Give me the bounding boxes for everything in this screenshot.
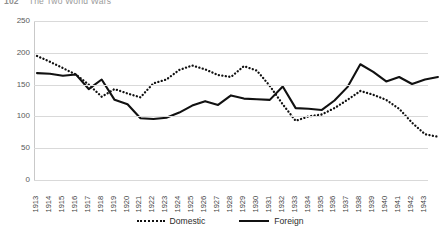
running-title: The Two World Wars [29,0,111,6]
x-tick-label-1918: 1918 [97,196,105,213]
x-tick-label-1925: 1925 [188,196,196,213]
x-tick-label-1942: 1942 [407,196,415,213]
x-tick-label-1940: 1940 [382,196,390,213]
x-tick-label-1930: 1930 [252,196,260,213]
x-tick-label-1924: 1924 [175,196,183,213]
x-tick-label-1939: 1939 [369,196,377,213]
x-tick-label-1919: 1919 [110,196,118,213]
y-axis-labels: 050100150200250 [0,21,30,181]
x-tick-label-1943: 1943 [420,196,428,213]
x-tick-label-1936: 1936 [330,196,338,213]
gridline-50 [34,148,428,149]
y-tick-label-150: 150 [0,81,30,89]
gridline-200 [34,53,428,54]
gridline-250 [34,21,428,22]
page-running-header: 102The Two World Wars [0,0,440,9]
legend-swatch-foreign-icon [239,220,269,222]
x-tick-label-1923: 1923 [162,196,170,213]
legend-item-domestic: Domestic [137,216,206,226]
x-tick-label-1929: 1929 [239,196,247,213]
x-tick-label-1927: 1927 [213,196,221,213]
legend-swatch-domestic-icon [137,220,165,222]
x-tick-label-1933: 1933 [291,196,299,213]
x-tick-label-1920: 1920 [123,196,131,213]
chart-legend: Domestic Foreign [0,212,440,230]
x-tick-label-1938: 1938 [356,196,364,213]
y-tick-label-0: 0 [0,176,30,184]
legend-label-domestic: Domestic [170,216,206,226]
x-tick-label-1935: 1935 [317,196,325,213]
x-tick-label-1941: 1941 [395,196,403,213]
page-number: 102 [4,0,19,6]
x-axis-labels: 1913191419151916191719181919192019211922… [34,183,428,213]
line-chart: 050100150200250 191319141915191619171918… [0,9,440,232]
legend-item-foreign: Foreign [239,216,303,226]
y-tick-label-250: 250 [0,17,30,25]
series-layer [34,21,428,180]
x-tick-label-1934: 1934 [304,196,312,213]
gridline-0 [34,180,428,181]
legend-label-foreign: Foreign [274,216,303,226]
gridline-100 [34,116,428,117]
x-tick-label-1913: 1913 [32,196,40,213]
x-tick-label-1931: 1931 [265,196,273,213]
x-tick-label-1937: 1937 [343,196,351,213]
y-tick-label-50: 50 [0,144,30,152]
x-tick-label-1916: 1916 [71,196,79,213]
x-tick-label-1926: 1926 [201,196,209,213]
gridline-150 [34,85,428,86]
x-tick-label-1922: 1922 [149,196,157,213]
x-tick-label-1914: 1914 [45,196,53,213]
x-tick-label-1928: 1928 [226,196,234,213]
x-tick-label-1932: 1932 [278,196,286,213]
x-tick-label-1915: 1915 [58,196,66,213]
x-tick-label-1917: 1917 [84,196,92,213]
plot-area [34,21,428,180]
y-tick-label-200: 200 [0,49,30,57]
x-tick-label-1921: 1921 [136,196,144,213]
y-tick-label-100: 100 [0,112,30,120]
